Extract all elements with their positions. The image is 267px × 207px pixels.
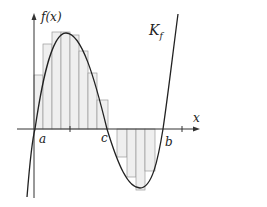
- point-label-c: c: [101, 131, 108, 145]
- y-axis-label: f(x): [40, 10, 62, 24]
- x-axis-arrow-icon: [193, 127, 200, 132]
- riemann-rectangle: [61, 32, 70, 129]
- riemann-rectangle: [43, 44, 52, 129]
- y-axis-arrow-icon: [32, 13, 37, 20]
- curve-label: Kf: [148, 22, 164, 41]
- upper-riemann-rectangles: [34, 32, 108, 129]
- riemann-rectangle: [136, 129, 145, 190]
- x-axis-label: x: [193, 111, 200, 125]
- riemann-rectangle: [70, 35, 79, 129]
- point-label-b: b: [165, 135, 173, 149]
- riemann-rectangle: [127, 129, 136, 177]
- riemann-rectangle: [145, 129, 155, 171]
- riemann-rectangle: [88, 73, 97, 129]
- riemann-rectangle: [34, 75, 43, 129]
- riemann-rectangle: [79, 51, 88, 129]
- riemann-rectangle: [117, 129, 127, 157]
- riemann-sum-diagram: f(x) x Kf a c b: [0, 0, 267, 207]
- point-label-a: a: [39, 132, 46, 146]
